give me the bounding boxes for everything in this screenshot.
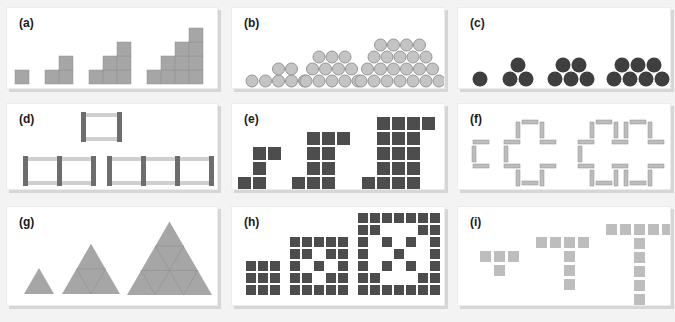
triangle (127, 221, 212, 295)
square-tile (189, 56, 203, 70)
light-circle (273, 63, 285, 75)
dark-square (422, 117, 435, 130)
light-circle (368, 75, 380, 87)
light-circle (313, 75, 325, 87)
lattice-square (358, 225, 368, 235)
vertical-toothpick (624, 122, 628, 138)
lattice-square (302, 237, 312, 247)
square-tile (89, 70, 103, 84)
lattice-square (338, 285, 348, 295)
square-tile (103, 56, 117, 70)
lattice-square (430, 237, 440, 247)
dark-square (407, 132, 420, 145)
horizontal-toothpick (522, 181, 538, 185)
lattice-square (394, 285, 404, 295)
lattice-square (314, 237, 324, 247)
horizontal-toothpick (578, 164, 594, 168)
light-circle (339, 51, 351, 63)
horizontal-toothpick (473, 140, 489, 144)
vertical-toothpick (516, 170, 520, 186)
light-circle (433, 75, 444, 87)
t-top-square (662, 224, 670, 235)
figure-staircase-squares (7, 8, 217, 88)
light-circle (326, 75, 338, 87)
lattice-square (246, 285, 256, 295)
lattice-square (430, 261, 440, 271)
lattice-square (430, 273, 440, 283)
light-circle (368, 51, 380, 63)
lattice-square (326, 237, 336, 247)
light-circle (355, 75, 367, 87)
triangle (24, 268, 54, 294)
dark-square (268, 147, 281, 160)
light-circle (394, 51, 406, 63)
dark-square (377, 162, 390, 175)
vertical-toothpick (91, 156, 96, 186)
light-circle (414, 63, 426, 75)
horizontal-toothpick (61, 157, 92, 161)
horizontal-toothpick (596, 120, 612, 124)
vertical-toothpick (81, 112, 86, 142)
vertical-toothpick (504, 146, 508, 162)
lattice-square (290, 273, 300, 283)
lattice-square (338, 237, 348, 247)
light-circle (427, 63, 439, 75)
square-tile (45, 70, 59, 84)
t-top-square (564, 237, 575, 248)
panel-e: (e) (231, 103, 445, 190)
dark-square (392, 147, 405, 160)
lattice-square (406, 237, 416, 247)
lattice-square (358, 261, 368, 271)
horizontal-toothpick (578, 140, 594, 144)
figure-toothpick-rectangles (7, 104, 217, 189)
horizontal-toothpick (630, 181, 646, 185)
lattice-square (338, 273, 348, 283)
lattice-square (370, 285, 380, 295)
lattice-square (418, 285, 428, 295)
dark-circle (655, 72, 670, 87)
lattice-square (358, 213, 368, 223)
light-circle (273, 75, 285, 87)
lattice-square (430, 285, 440, 295)
figure-circle-trapezoids (232, 8, 444, 88)
horizontal-toothpick (145, 181, 176, 185)
lattice-square (290, 249, 300, 259)
dark-square (322, 162, 335, 175)
t-top-square (578, 237, 589, 248)
dark-square (307, 177, 320, 189)
lattice-square (290, 261, 300, 271)
vertical-toothpick (540, 170, 544, 186)
dark-circle (639, 72, 654, 87)
lattice-square (430, 225, 440, 235)
t-top-square (620, 224, 631, 235)
dark-square (253, 162, 266, 175)
horizontal-toothpick (596, 181, 612, 185)
dark-square (392, 117, 405, 130)
dark-square (253, 177, 266, 189)
dark-circle (503, 72, 518, 87)
dark-circle (511, 58, 526, 73)
t-top-square (494, 251, 505, 262)
dark-circle (580, 72, 595, 87)
t-stem-square (494, 265, 505, 276)
square-tile (189, 28, 203, 42)
lattice-square (394, 249, 404, 259)
lattice-square (406, 261, 416, 271)
lattice-square (358, 249, 368, 259)
square-tile (117, 70, 131, 84)
figure-subdivided-triangles (7, 207, 217, 305)
panel-h: (h) (231, 206, 445, 306)
t-top-square (550, 237, 561, 248)
dark-square (407, 177, 420, 189)
square-tile (15, 70, 29, 84)
vertical-toothpick (141, 156, 146, 186)
vertical-toothpick (209, 156, 214, 186)
horizontal-toothpick (27, 157, 58, 161)
t-top-square (606, 224, 617, 235)
dark-square (407, 162, 420, 175)
vertical-toothpick (590, 170, 594, 186)
horizontal-toothpick (504, 140, 520, 144)
lattice-square (338, 261, 348, 271)
dark-circle (473, 72, 488, 87)
lattice-square (418, 273, 428, 283)
